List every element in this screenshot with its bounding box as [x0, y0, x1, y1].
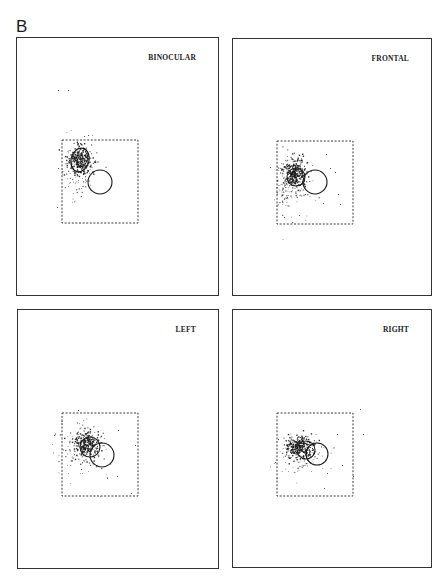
scatter-plot	[0, 0, 440, 583]
scatter-points	[270, 409, 364, 489]
target-window-dashed-box	[277, 413, 353, 496]
panel-right: RIGHT	[232, 309, 432, 568]
